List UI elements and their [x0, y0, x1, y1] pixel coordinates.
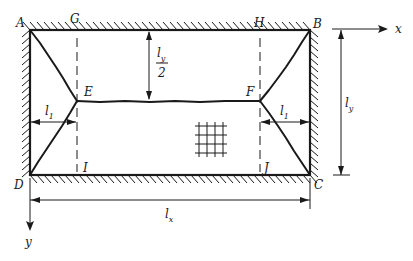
- hatch-mark: [22, 170, 30, 177]
- hatch-mark: [310, 51, 318, 58]
- hatch-mark: [233, 175, 240, 183]
- lx-sub: x: [169, 215, 174, 224]
- hatch-mark: [135, 175, 142, 183]
- hatch-mark: [22, 79, 30, 86]
- hatch-mark: [51, 22, 58, 30]
- l1-right-sub: 1: [284, 112, 289, 121]
- hatch-mark: [107, 175, 114, 183]
- point-label-E: E: [83, 85, 93, 99]
- corner-label-A: A: [15, 16, 25, 30]
- hatch-mark: [296, 22, 303, 30]
- hatch-mark: [156, 22, 163, 30]
- hatch-mark: [219, 22, 226, 30]
- hatch-mark: [170, 22, 177, 30]
- hatch-mark: [100, 22, 107, 30]
- hatch-mark: [22, 121, 30, 128]
- yield-line-BF: [260, 30, 310, 101]
- hatch-mark: [44, 175, 51, 183]
- hatch-mark: [191, 22, 198, 30]
- hatch-mark: [310, 163, 318, 170]
- point-label-I: I: [82, 161, 88, 175]
- hatch-mark: [51, 175, 58, 183]
- hatch-mark: [142, 175, 149, 183]
- dimension-lx: lx: [30, 178, 310, 224]
- hatch-mark: [310, 156, 318, 163]
- hatch-mark: [310, 93, 318, 100]
- hatch-mark: [65, 175, 72, 183]
- hatch-mark: [310, 86, 318, 93]
- point-label-F: F: [245, 85, 255, 99]
- hatch-mark: [177, 22, 184, 30]
- hatch-mark: [310, 128, 318, 135]
- hatch-mark: [44, 22, 51, 30]
- hatch-mark: [303, 175, 310, 183]
- svg-text:lx: lx: [165, 207, 174, 224]
- hatch-mark: [177, 175, 184, 183]
- point-label-J: J: [261, 161, 270, 175]
- hatch-mark: [86, 175, 93, 183]
- hatch-mark: [268, 22, 275, 30]
- hatch-mark: [268, 175, 275, 183]
- yield-line-EF: [77, 101, 260, 102]
- hatch-mark: [275, 175, 282, 183]
- hatch-mark: [191, 175, 198, 183]
- corner-label-D: D: [13, 178, 24, 192]
- hatch-mark: [226, 22, 233, 30]
- hatch-mark: [198, 175, 205, 183]
- hatch-mark: [282, 175, 289, 183]
- dimension-ly-half: ly 2: [146, 31, 168, 100]
- reinforcement-mesh-icon: [195, 122, 227, 157]
- hatch-mark: [247, 22, 254, 30]
- svg-text:ly: ly: [345, 96, 354, 113]
- hatch-mark: [261, 175, 268, 183]
- dimension-l1-right: l1: [261, 104, 309, 125]
- hatch-mark: [184, 175, 191, 183]
- hatch-mark: [22, 37, 30, 44]
- hatch-mark: [310, 100, 318, 107]
- hatch-mark: [310, 121, 318, 128]
- hatch-mark: [22, 30, 30, 37]
- hatch-mark: [22, 86, 30, 93]
- y-axis-label: y: [24, 235, 32, 249]
- hatch-mark: [22, 107, 30, 114]
- x-axis: x: [332, 22, 402, 36]
- hatch-mark: [289, 22, 296, 30]
- hatch-mark: [128, 175, 135, 183]
- hatch-mark: [128, 22, 135, 30]
- hatch-mark: [310, 30, 318, 37]
- hatch-mark: [275, 22, 282, 30]
- slab-outline: [30, 30, 310, 175]
- hatch-mark: [22, 58, 30, 65]
- hatch-mark: [142, 22, 149, 30]
- slab-yield-line-diagram: ly 2 l1 l1 ly lx x: [0, 0, 413, 261]
- hatch-mark: [100, 175, 107, 183]
- dimension-ly: ly: [333, 30, 354, 175]
- svg-text:ly: ly: [157, 46, 166, 63]
- hatch-mark: [149, 22, 156, 30]
- hatch-mark: [310, 37, 318, 44]
- hatch-mark: [240, 22, 247, 30]
- hatch-mark: [135, 22, 142, 30]
- hatch-mark: [22, 135, 30, 142]
- ly-half-sub: y: [160, 54, 166, 63]
- hatch-mark: [310, 135, 318, 142]
- y-axis: y: [24, 178, 34, 249]
- hatch-mark: [22, 72, 30, 79]
- svg-text:l1: l1: [45, 104, 54, 121]
- hatch-mark: [58, 175, 65, 183]
- yield-line-AE: [30, 30, 77, 101]
- hatch-mark: [205, 22, 212, 30]
- hatch-mark: [22, 100, 30, 107]
- hatch-mark: [212, 22, 219, 30]
- corner-label-B: B: [312, 17, 322, 31]
- hatch-mark: [30, 22, 37, 30]
- top-support-hatching: [23, 22, 310, 30]
- hatch-mark: [79, 22, 86, 30]
- hatch-mark: [37, 22, 44, 30]
- hatch-mark: [22, 51, 30, 58]
- point-label-G: G: [70, 12, 80, 26]
- hatch-mark: [22, 44, 30, 51]
- ly-half-denominator: 2: [157, 66, 166, 80]
- hatch-mark: [282, 22, 289, 30]
- hatch-mark: [86, 22, 93, 30]
